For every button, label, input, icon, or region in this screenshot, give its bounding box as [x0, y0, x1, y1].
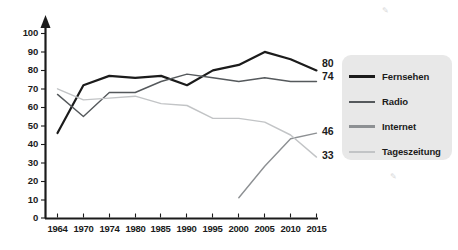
legend-swatch-tageszeitung	[349, 151, 375, 153]
legend-label-tageszeitung: Tageszeitung	[382, 146, 441, 157]
ytick-label-20: 20	[8, 176, 38, 186]
legend-item-radio[interactable]: Radio	[342, 89, 452, 114]
ytick-label-80: 80	[8, 65, 38, 75]
ytick-label-70: 70	[8, 84, 38, 94]
value-label-internet: 46	[322, 126, 334, 137]
legend-swatch-radio	[349, 101, 375, 103]
value-label-tageszeitung: 33	[322, 150, 334, 161]
legend-label-radio: Radio	[382, 96, 408, 107]
legend-swatch-fernsehen	[349, 75, 375, 78]
ytick-label-90: 90	[8, 47, 38, 57]
legend-item-internet[interactable]: Internet	[342, 114, 452, 139]
series-line-tageszeitung	[58, 89, 317, 157]
legend-item-tageszeitung[interactable]: Tageszeitung	[342, 139, 452, 164]
ytick-label-10: 10	[8, 195, 38, 205]
x-axis-ticks	[58, 214, 317, 218]
legend-swatch-internet	[349, 125, 375, 128]
chart-legend: Fernsehen Radio Internet Tageszeitung	[342, 55, 452, 160]
ytick-label-30: 30	[8, 158, 38, 168]
y-axis	[41, 15, 51, 219]
legend-item-fernsehen[interactable]: Fernsehen	[342, 64, 452, 89]
ytick-label-100: 100	[8, 28, 38, 38]
ytick-label-50: 50	[8, 121, 38, 131]
series-line-internet	[239, 133, 317, 198]
legend-label-internet: Internet	[382, 121, 416, 132]
value-label-radio: 74	[322, 71, 334, 82]
ytick-label-0: 0	[8, 213, 38, 223]
ytick-label-60: 60	[8, 102, 38, 112]
series-layer	[58, 52, 317, 198]
series-line-fernsehen	[58, 52, 317, 133]
line-chart: 100 90 80 70 60 50 40 30 20 10 0 1964 19…	[0, 0, 458, 250]
value-label-fernsehen: 80	[322, 58, 334, 69]
ytick-label-40: 40	[8, 139, 38, 149]
legend-label-fernsehen: Fernsehen	[382, 71, 429, 82]
xtick-label-2015: 2015	[300, 224, 334, 234]
